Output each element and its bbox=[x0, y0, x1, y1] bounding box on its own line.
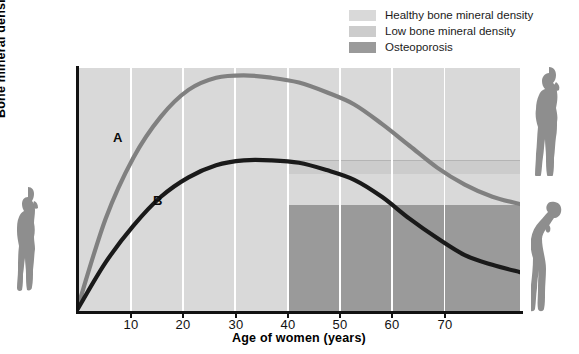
x-axis-label: Age of women (years) bbox=[78, 331, 520, 345]
x-ticklabel-70: 70 bbox=[437, 317, 452, 332]
legend-item-low: Low bone mineral density bbox=[349, 24, 574, 38]
x-ticklabel-40: 40 bbox=[280, 317, 295, 332]
x-ticklabel-30: 30 bbox=[228, 317, 243, 332]
legend-swatch-healthy bbox=[349, 10, 376, 21]
curve-b-low-peak-bone-mass bbox=[78, 160, 520, 309]
x-ticklabel-50: 50 bbox=[332, 317, 347, 332]
curve-layer bbox=[78, 68, 520, 311]
curve-label-b: B bbox=[153, 193, 162, 208]
curve-a-healthy-peak-bone-mass bbox=[78, 75, 520, 306]
legend-label-healthy: Healthy bone mineral density bbox=[385, 10, 533, 21]
curve-label-a: A bbox=[113, 130, 122, 145]
legend-item-osteoporosis: Osteoporosis bbox=[349, 40, 574, 54]
legend-label-low: Low bone mineral density bbox=[385, 26, 515, 37]
y-axis-line bbox=[76, 66, 79, 314]
plot-canvas bbox=[78, 68, 520, 311]
stooped-woman-silhouette-icon bbox=[531, 196, 567, 312]
legend-label-osteoporosis: Osteoporosis bbox=[385, 42, 453, 53]
legend: Healthy bone mineral density Low bone mi… bbox=[349, 8, 574, 56]
legend-swatch-osteoporosis bbox=[349, 42, 376, 53]
standing-woman-silhouette-icon bbox=[531, 64, 565, 176]
x-axis-line bbox=[76, 311, 523, 314]
legend-item-healthy: Healthy bone mineral density bbox=[349, 8, 574, 22]
x-ticklabel-20: 20 bbox=[175, 317, 190, 332]
legend-swatch-low bbox=[349, 26, 376, 37]
y-axis-label: Bone mineral density bbox=[0, 0, 8, 118]
x-ticklabel-60: 60 bbox=[384, 317, 399, 332]
chart-plot-area bbox=[78, 68, 520, 311]
x-ticklabel-10: 10 bbox=[123, 317, 138, 332]
standing-woman-silhouette-icon bbox=[12, 184, 42, 292]
